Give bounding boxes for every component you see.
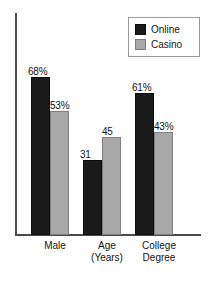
legend-item-online[interactable]: Online — [135, 23, 194, 36]
bar-degree-online[interactable]: 61% — [135, 93, 154, 235]
x-tick-label-college-degree: College Degree — [127, 240, 191, 264]
bar-value-label-male-casino: 53% — [50, 100, 69, 111]
legend-item-casino[interactable]: Casino — [135, 38, 194, 51]
bar-degree-casino[interactable]: 43% — [154, 132, 173, 235]
legend-swatch-online-icon — [135, 24, 146, 35]
legend-swatch-casino-icon — [135, 39, 146, 50]
bar-value-label-age-casino: 45 — [102, 126, 113, 137]
bar-value-label-degree-casino: 43% — [154, 121, 173, 132]
bar-age-online[interactable]: 31 — [83, 160, 102, 235]
legend-label-casino: Casino — [151, 39, 182, 50]
legend-label-online: Online — [151, 24, 180, 35]
x-tick-label-degree-line2: Degree — [127, 252, 191, 264]
bar-age-casino[interactable]: 45 — [102, 137, 121, 235]
bar-value-label-male-online: 68% — [28, 66, 47, 77]
x-tick-label-age-line1: Age — [98, 240, 116, 251]
bar-value-label-age-online: 31 — [80, 149, 91, 160]
bar-group-male: 68% 53% — [29, 13, 81, 235]
bar-male-casino[interactable]: 53% — [50, 111, 69, 235]
x-tick-label-male-line1: Male — [44, 240, 66, 251]
bar-group-age: 31 45 — [81, 13, 133, 235]
chart-legend: Online Casino — [128, 17, 200, 57]
x-tick-label-degree-line1: College — [142, 240, 176, 251]
bar-male-online[interactable]: 68% — [31, 77, 50, 236]
x-axis-tick-labels: Male Age (Years) College Degree — [17, 240, 201, 280]
bar-chart: 68% 53% 31 45 61% 43% Male — [0, 0, 210, 281]
bar-value-label-degree-online: 61% — [132, 82, 151, 93]
